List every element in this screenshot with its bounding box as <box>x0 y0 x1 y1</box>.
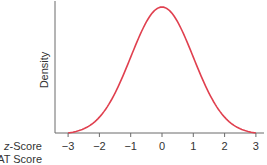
x-tick-label: −3 <box>62 140 75 152</box>
z-score-axis-label: z-Score <box>3 140 42 152</box>
x-axis-ticks: −3−2−10123 <box>62 133 259 152</box>
density-curve <box>68 7 256 133</box>
x-tick-label: 2 <box>222 140 228 152</box>
x-tick-label: −1 <box>124 140 137 152</box>
y-axis-label: Density <box>38 51 50 88</box>
z-score-rest: -Score <box>10 140 42 152</box>
axes <box>55 1 264 133</box>
x-tick-label: −2 <box>93 140 106 152</box>
x-tick-label: 3 <box>253 140 259 152</box>
x-tick-label: 1 <box>190 140 196 152</box>
x-tick-label: 0 <box>159 140 165 152</box>
normal-distribution-chart: −3−2−10123 Density z-Score SAT Score <box>0 0 267 165</box>
sat-score-axis-label: SAT Score <box>0 153 42 165</box>
